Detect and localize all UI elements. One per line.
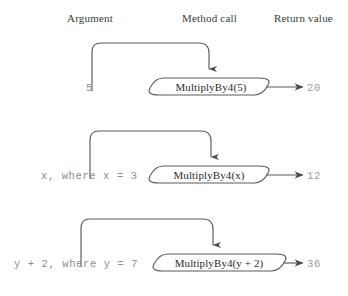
return-value-label-row-2: 12	[307, 170, 321, 182]
diagram-canvas: Argument Method call Return value 5 x, w…	[0, 0, 348, 296]
method-call-label-row-1: MultiplyBy4(5)	[158, 81, 264, 93]
column-header-argument: Argument	[67, 12, 113, 24]
return-value-label-row-3: 36	[307, 258, 321, 270]
method-call-label-row-3: MultiplyBy4(y + 2)	[158, 257, 280, 269]
method-call-label-row-2: MultiplyBy4(x)	[156, 169, 262, 181]
column-header-method-call: Method call	[182, 12, 237, 24]
return-value-label-row-1: 20	[307, 82, 321, 94]
column-header-return-value: Return value	[274, 12, 333, 24]
argument-label-row-1: 5	[86, 82, 93, 94]
argument-label-row-2: x, where x = 3	[41, 170, 138, 182]
argument-label-row-3: y + 2, where y = 7	[14, 258, 138, 270]
diagram-vector-layer	[0, 0, 348, 296]
